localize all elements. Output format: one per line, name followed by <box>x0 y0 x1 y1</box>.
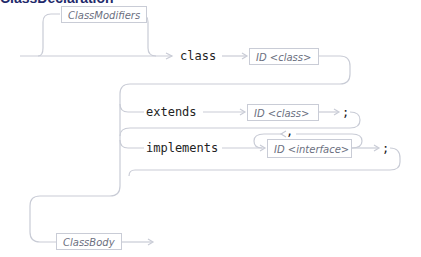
railroad-lines <box>0 0 421 257</box>
nonterminal-id-class-extends: ID <class> <box>247 104 319 121</box>
nonterminal-id-interface: ID <interface> <box>267 139 352 158</box>
keyword-semicolon-extends: ; <box>342 105 349 119</box>
keyword-extends: extends <box>146 105 197 119</box>
nonterminal-class-body: ClassBody <box>56 233 122 250</box>
nonterminal-id-class: ID <class> <box>249 48 319 65</box>
keyword-semicolon-implements: ; <box>382 141 389 155</box>
nonterminal-class-modifiers: ClassModifiers <box>61 6 147 23</box>
keyword-implements: implements <box>146 141 218 155</box>
keyword-class: class <box>180 49 216 63</box>
keyword-comma: , <box>286 124 293 138</box>
